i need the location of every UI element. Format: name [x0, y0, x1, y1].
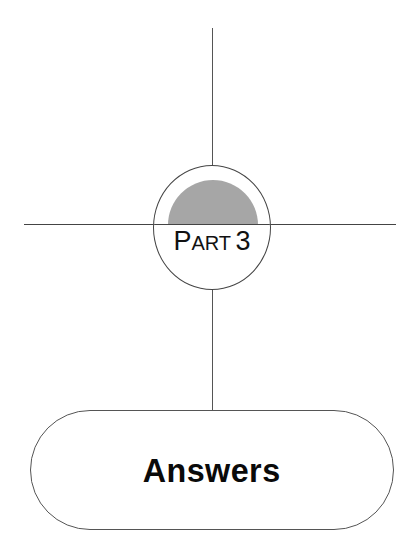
part-label: PART 3: [154, 226, 270, 257]
part-prefix-rest: ART: [191, 232, 231, 254]
vertical-rule-top: [212, 28, 213, 166]
section-title-box: Answers: [30, 410, 394, 530]
emblem-divider: [154, 224, 270, 225]
vertical-rule-bottom: [212, 290, 213, 411]
part-emblem: PART 3: [153, 165, 271, 290]
part-prefix-initial: P: [173, 226, 191, 256]
section-title: Answers: [143, 451, 281, 490]
part-number: 3: [236, 226, 251, 256]
